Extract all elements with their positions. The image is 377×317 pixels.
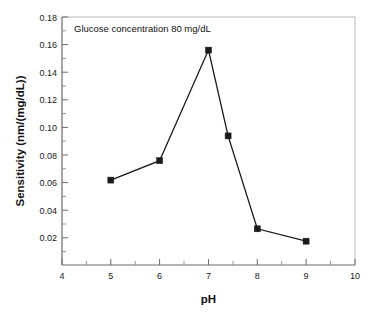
y-tick-label: 0.04 bbox=[39, 206, 57, 216]
y-tick-label: 0.12 bbox=[39, 95, 57, 105]
y-tick-label: 0.08 bbox=[39, 151, 57, 161]
y-tick-label: 0.14 bbox=[39, 68, 57, 78]
data-point bbox=[225, 133, 231, 139]
data-point bbox=[254, 226, 260, 232]
x-axis-title: pH bbox=[201, 293, 216, 305]
x-tick-label: 6 bbox=[157, 271, 162, 281]
sensitivity-vs-ph-chart: 0.18 0.16 0.14 0.12 0.10 0.08 0.06 0.04 … bbox=[0, 0, 377, 317]
x-tick-label: 10 bbox=[350, 271, 360, 281]
x-tick-label: 8 bbox=[255, 271, 260, 281]
data-point bbox=[206, 47, 212, 53]
y-tick-label: 0.02 bbox=[39, 233, 57, 243]
x-tick-label: 7 bbox=[206, 271, 211, 281]
y-tick-label: 0.18 bbox=[39, 13, 57, 23]
y-tick-labels: 0.18 0.16 0.14 0.12 0.10 0.08 0.06 0.04 … bbox=[39, 13, 57, 244]
annotation-text: Glucose concentration 80 mg/dL bbox=[74, 23, 211, 34]
y-tick-label: 0.06 bbox=[39, 178, 57, 188]
data-point bbox=[108, 177, 114, 183]
data-point bbox=[303, 238, 309, 244]
data-point bbox=[157, 158, 163, 164]
y-tick-label: 0.16 bbox=[39, 40, 57, 50]
x-tick-label: 4 bbox=[59, 271, 64, 281]
chart-container: 0.18 0.16 0.14 0.12 0.10 0.08 0.06 0.04 … bbox=[0, 0, 377, 317]
y-tick-label: 0.10 bbox=[39, 123, 57, 133]
x-tick-label: 5 bbox=[108, 271, 113, 281]
y-axis-title: Sensitivity (nm/(mg/dL)) bbox=[14, 75, 26, 206]
x-tick-label: 9 bbox=[304, 271, 309, 281]
